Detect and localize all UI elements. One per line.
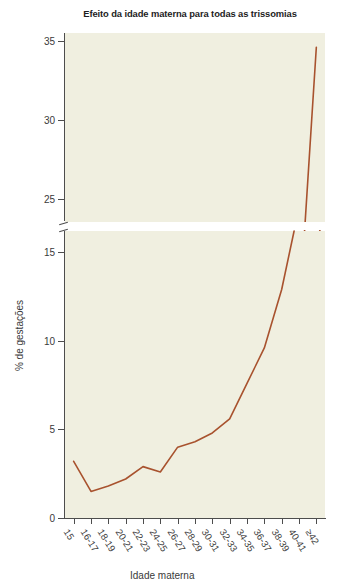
x-tick-label-13: 40-41 bbox=[296, 527, 297, 528]
y-tick-label-10: 10 bbox=[44, 335, 55, 346]
x-tick-label-8: 30-31 bbox=[209, 527, 210, 528]
y-tick-mark-30 bbox=[58, 120, 64, 121]
x-tick-mark-14 bbox=[316, 518, 317, 524]
x-tick-mark-6 bbox=[178, 518, 179, 524]
x-tick-mark-12 bbox=[282, 518, 283, 524]
y-axis-label: % de gestações bbox=[14, 281, 25, 391]
x-tick-label-14: ≥42 bbox=[313, 527, 314, 528]
x-tick-label-2: 18-19 bbox=[105, 527, 106, 528]
x-tick-mark-9 bbox=[230, 518, 231, 524]
y-tick-mark-5 bbox=[58, 429, 64, 430]
y-axis-upper bbox=[64, 33, 65, 221]
chart-figure: Efeito da idade materna para todas as tr… bbox=[0, 0, 343, 588]
x-tick-label-3: 20-21 bbox=[123, 527, 124, 528]
x-tick-mark-10 bbox=[247, 518, 248, 524]
trisomy-line-lower bbox=[74, 231, 294, 491]
chart-title: Efeito da idade materna para todas as tr… bbox=[40, 8, 340, 19]
x-tick-mark-5 bbox=[160, 518, 161, 524]
x-tick-mark-4 bbox=[143, 518, 144, 524]
x-tick-label-9: 32-33 bbox=[227, 527, 228, 528]
x-tick-label-6: 26-27 bbox=[175, 527, 176, 528]
x-tick-mark-0 bbox=[74, 518, 75, 524]
y-tick-mark-35 bbox=[58, 41, 64, 42]
x-axis-label: Idade materna bbox=[130, 570, 195, 581]
x-tick-mark-7 bbox=[195, 518, 196, 524]
x-tick-label-5: 24-25 bbox=[157, 527, 158, 528]
y-tick-mark-15 bbox=[58, 252, 64, 253]
x-tick-mark-13 bbox=[299, 518, 300, 524]
y-tick-mark-10 bbox=[58, 341, 64, 342]
y-axis-lower bbox=[64, 231, 65, 519]
series-svg-upper bbox=[65, 33, 325, 223]
x-tick-label-12: 38-39 bbox=[279, 527, 280, 528]
y-tick-label-25: 25 bbox=[44, 194, 55, 205]
axis-break-gap bbox=[60, 222, 326, 230]
plot-area-lower-segment bbox=[65, 231, 325, 518]
x-tick-label-text-0: 15 bbox=[61, 527, 76, 542]
x-tick-mark-11 bbox=[264, 518, 265, 524]
y-tick-label-5: 5 bbox=[49, 424, 55, 435]
y-tick-label-15: 15 bbox=[44, 247, 55, 258]
x-tick-label-7: 28-29 bbox=[192, 527, 193, 528]
x-tick-mark-2 bbox=[108, 518, 109, 524]
y-tick-label-30: 30 bbox=[44, 115, 55, 126]
x-tick-label-1: 16-17 bbox=[88, 527, 89, 528]
x-tick-label-4: 22-23 bbox=[140, 527, 141, 528]
y-tick-label-0: 0 bbox=[49, 513, 55, 524]
x-tick-label-11: 36-37 bbox=[261, 527, 262, 528]
y-tick-mark-0 bbox=[58, 518, 64, 519]
x-tick-mark-1 bbox=[91, 518, 92, 524]
x-tick-mark-3 bbox=[126, 518, 127, 524]
x-tick-label-10: 34-35 bbox=[244, 527, 245, 528]
y-tick-mark-25 bbox=[58, 199, 64, 200]
y-tick-label-35: 35 bbox=[44, 35, 55, 46]
plot-area-upper-segment bbox=[65, 33, 325, 223]
x-tick-mark-8 bbox=[212, 518, 213, 524]
x-tick-label-0: 15 bbox=[71, 527, 72, 528]
series-svg-lower bbox=[65, 231, 325, 518]
